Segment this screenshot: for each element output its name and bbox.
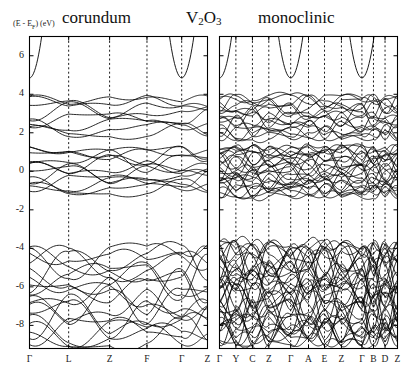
plot-canvas <box>0 0 418 383</box>
x-tick-label-Z: Z <box>103 354 117 364</box>
band-curve-conduction <box>220 28 233 78</box>
x-tick-label-A: A <box>302 354 316 364</box>
band-curve <box>30 242 208 281</box>
band-curve <box>30 269 208 315</box>
band-curve <box>30 147 208 156</box>
x-tick-label-L: L <box>62 354 76 364</box>
x-tick-label-Y: Y <box>229 354 243 364</box>
x-tick-label-Γ: Γ <box>23 354 37 364</box>
x-tick-label-Γ: Γ <box>175 354 189 364</box>
y-tick-label: 2 <box>4 126 24 137</box>
band-curves-corundum <box>30 28 208 351</box>
panel-title-monoclinic: monoclinic <box>258 8 334 28</box>
x-tick-label-C: C <box>245 354 259 364</box>
formula-v: V <box>186 8 198 27</box>
y-tick-label: 6 <box>4 49 24 60</box>
band-curve <box>30 164 208 184</box>
y-tick-label: 0 <box>4 164 24 175</box>
formula-sub-3: 3 <box>216 15 222 27</box>
x-tick-label-Z: Z <box>262 354 276 364</box>
panel-title-corundum: corundum <box>62 8 131 28</box>
y-tick-label: -6 <box>4 280 24 291</box>
band-structure-figure: corundum V2O3 monoclinic (E - EF) (eV) 6… <box>0 0 418 383</box>
y-tick-label: -2 <box>4 203 24 214</box>
band-curve <box>30 243 208 280</box>
y-axis-label-post: ) (eV) <box>35 19 54 28</box>
y-axis-label-pre: (E - E <box>13 19 32 28</box>
y-tick-label: 4 <box>4 87 24 98</box>
compound-formula: V2O3 <box>186 8 222 28</box>
band-curve <box>30 95 208 106</box>
band-curve-conduction <box>168 28 195 78</box>
band-curve <box>30 95 208 104</box>
x-tick-label-Z: Z <box>334 354 348 364</box>
y-axis-label: (E - EF) (eV) <box>13 19 55 30</box>
x-tick-label-Γ: Γ <box>284 354 298 364</box>
x-tick-label-E: E <box>318 354 332 364</box>
y-tick-label: -4 <box>4 241 24 252</box>
band-curve-conduction <box>349 28 376 78</box>
panel-frame-corundum <box>30 37 208 349</box>
band-curve-conduction <box>277 28 304 78</box>
band-curve <box>30 100 208 117</box>
x-tick-label-Γ: Γ <box>213 354 227 364</box>
band-curve <box>30 161 208 174</box>
y-tick-label: -8 <box>4 318 24 329</box>
band-curve-conduction <box>30 28 43 78</box>
x-tick-label-Z: Z <box>391 354 405 364</box>
x-tick-label-F: F <box>140 354 154 364</box>
band-curve <box>30 262 208 297</box>
band-curve <box>30 119 208 137</box>
formula-o: O <box>204 8 216 27</box>
band-curve <box>30 245 208 265</box>
